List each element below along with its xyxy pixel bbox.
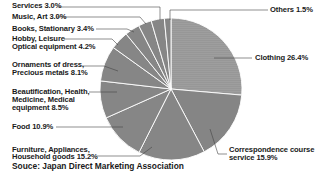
label-others: Others 1.5% (270, 6, 313, 14)
label-ornaments-line2: Precious metals 8.1% (12, 69, 88, 77)
label-correspondence-line2: service 15.9% (229, 154, 278, 162)
chart-title-cropped (60, 0, 324, 2)
label-food: Food 10.9% (12, 123, 53, 131)
label-clothing: Clothing 26.4% (255, 54, 308, 62)
pie-slices (100, 18, 242, 160)
label-hobby-line2: Optical equipment 4.2% (12, 43, 95, 51)
source-note: Souce: Japan Direct Marketing Associatio… (12, 161, 184, 171)
pie-slice-clothing (171, 18, 242, 95)
label-beautification-line3: equipment 8.5% (12, 104, 68, 112)
label-furniture-line2: Household goods 15.2% (12, 153, 98, 161)
label-books-stationary: Books, Stationary 3.4% (12, 25, 94, 33)
label-music-art: Music, Art 3.0% (12, 13, 66, 21)
pie-chart: Services 3.0% Music, Art 3.0% Books, Sta… (0, 0, 324, 174)
label-services: Services 3.0% (12, 2, 61, 10)
